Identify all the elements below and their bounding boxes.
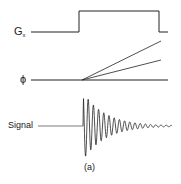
fid-signal-waveform <box>83 99 172 156</box>
phase-ramp-shallow <box>82 60 161 80</box>
phase-ramp-steep <box>82 41 161 80</box>
gradient-waveform <box>31 11 168 32</box>
pulse-sequence-diagram <box>0 0 181 184</box>
